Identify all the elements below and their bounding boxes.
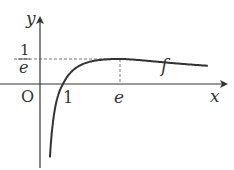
tick-label-e: e [114,87,124,107]
y-axis-label: y [25,8,36,28]
function-label: f [159,55,171,76]
curve-f [50,59,208,157]
function-graph: y x O 1 e 1 e f [0,0,234,170]
origin-label: O [21,87,34,106]
y-tick-denominator: e [19,58,28,77]
x-axis-label: x [210,86,220,106]
y-tick-numerator: 1 [20,41,30,59]
tick-label-one: 1 [63,88,73,107]
